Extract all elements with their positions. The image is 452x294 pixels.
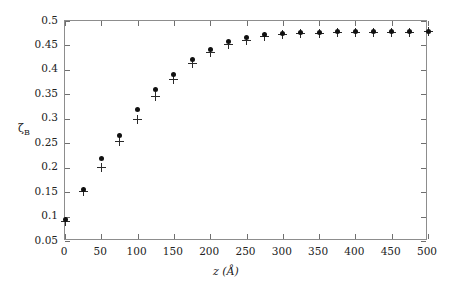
x-axis-tick <box>247 21 248 26</box>
data-point-plus <box>151 92 160 101</box>
x-axis-tick <box>319 234 320 239</box>
y-axis-tick <box>421 21 426 22</box>
y-axis-tick <box>421 217 426 218</box>
data-point-circle <box>335 29 340 34</box>
x-tick-label: 250 <box>226 246 266 257</box>
data-point-circle <box>81 187 86 192</box>
x-axis-tick <box>101 21 102 26</box>
x-axis-tick <box>210 21 211 26</box>
y-axis-tick <box>421 94 426 95</box>
data-point-plus <box>115 137 124 146</box>
x-tick-label: 150 <box>153 246 193 257</box>
y-axis-tick <box>65 143 70 144</box>
x-tick-label: 200 <box>189 246 229 257</box>
y-axis-tick <box>421 143 426 144</box>
y-tick-label: 0.05 <box>14 235 58 246</box>
y-axis-tick <box>421 45 426 46</box>
data-point-circle <box>317 30 322 35</box>
x-tick-label: 50 <box>80 246 120 257</box>
data-point-circle <box>426 29 431 34</box>
y-axis-tick <box>65 45 70 46</box>
x-axis-tick <box>174 21 175 26</box>
x-axis-tick <box>138 234 139 239</box>
y-tick-label: 0.1 <box>14 210 58 221</box>
x-axis-tick <box>65 21 66 26</box>
y-axis-tick <box>65 192 70 193</box>
y-tick-label: 0.3 <box>14 112 58 123</box>
y-axis-tick <box>421 119 426 120</box>
y-axis-tick <box>421 168 426 169</box>
y-axis-tick <box>65 168 70 169</box>
x-axis-title: z (Å) <box>0 266 452 277</box>
y-axis-tick <box>65 70 70 71</box>
data-point-circle <box>190 57 195 62</box>
x-tick-label: 500 <box>407 246 447 257</box>
x-axis-title-text: z (Å) <box>213 265 239 278</box>
x-axis-tick <box>101 234 102 239</box>
data-point-plus <box>97 163 106 172</box>
x-axis-tick <box>319 21 320 26</box>
y-axis-tick <box>421 70 426 71</box>
x-axis-tick <box>355 21 356 26</box>
data-point-circle <box>208 47 213 52</box>
x-axis-tick <box>247 234 248 239</box>
data-point-circle <box>117 133 122 138</box>
x-axis-tick <box>138 21 139 26</box>
x-tick-label: 0 <box>44 246 84 257</box>
y-tick-label: 0.25 <box>14 137 58 148</box>
x-tick-label: 100 <box>117 246 157 257</box>
y-tick-label: 0.2 <box>14 161 58 172</box>
data-point-circle <box>226 39 231 44</box>
x-axis-tick <box>210 234 211 239</box>
y-tick-label: 0.5 <box>14 15 58 26</box>
x-axis-tick <box>392 234 393 239</box>
x-axis-tick <box>283 234 284 239</box>
data-point-circle <box>99 156 104 161</box>
data-point-circle <box>135 107 140 112</box>
y-axis-tick <box>421 192 426 193</box>
y-tick-label: 0.4 <box>14 63 58 74</box>
y-tick-label: 0.35 <box>14 88 58 99</box>
y-axis-tick <box>65 241 70 242</box>
x-axis-tick <box>65 234 66 239</box>
x-axis-tick <box>174 234 175 239</box>
x-axis-tick <box>283 21 284 26</box>
x-axis-tick <box>428 234 429 239</box>
plot-area <box>64 20 427 240</box>
x-axis-tick <box>392 21 393 26</box>
figure-canvas: ζB 0.050.10.150.20.250.30.350.40.450.5 0… <box>0 0 452 294</box>
x-tick-label: 400 <box>334 246 374 257</box>
x-tick-label: 350 <box>298 246 338 257</box>
x-axis-tick <box>355 234 356 239</box>
y-axis-tick <box>421 241 426 242</box>
data-point-plus <box>133 115 142 124</box>
x-tick-label: 300 <box>262 246 302 257</box>
y-tick-label: 0.15 <box>14 186 58 197</box>
x-axis-tick <box>428 21 429 26</box>
y-axis-tick <box>65 94 70 95</box>
x-tick-label: 450 <box>371 246 411 257</box>
y-tick-label: 0.45 <box>14 39 58 50</box>
y-axis-tick <box>65 119 70 120</box>
